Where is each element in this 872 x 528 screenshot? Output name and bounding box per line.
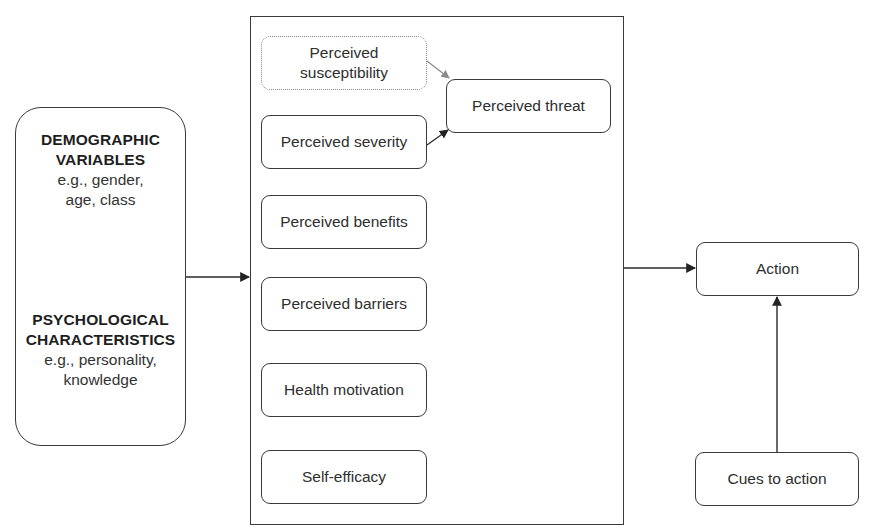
psychological-heading-line1: PSYCHOLOGICAL — [16, 310, 185, 330]
perceived-benefits-box: Perceived benefits — [261, 195, 427, 249]
cues-to-action-box: Cues to action — [695, 452, 859, 506]
perceived-threat-box: Perceived threat — [446, 79, 611, 133]
barriers-label: Perceived barriers — [281, 294, 407, 314]
cues-label: Cues to action — [727, 469, 826, 489]
psychological-example-line2: knowledge — [16, 370, 185, 390]
psychological-heading-line2: CHARACTERISTICS — [16, 330, 185, 350]
perceived-severity-box: Perceived severity — [261, 115, 427, 169]
self-efficacy-label: Self-efficacy — [302, 467, 386, 487]
benefits-label: Perceived benefits — [280, 212, 408, 232]
self-efficacy-box: Self-efficacy — [261, 450, 427, 504]
susceptibility-label-line1: Perceived — [310, 43, 379, 63]
demographic-example-line1: e.g., gender, — [16, 170, 185, 190]
threat-label: Perceived threat — [472, 96, 585, 116]
demographic-heading-line2: VARIABLES — [16, 150, 185, 170]
psychological-example-line1: e.g., personality, — [16, 350, 185, 370]
susceptibility-label-line2: susceptibility — [300, 63, 388, 83]
demographic-variables-group: DEMOGRAPHIC VARIABLES e.g., gender, age,… — [16, 130, 185, 210]
demographic-heading-line1: DEMOGRAPHIC — [16, 130, 185, 150]
psychological-characteristics-group: PSYCHOLOGICAL CHARACTERISTICS e.g., pers… — [16, 310, 185, 390]
modifying-factors-box: DEMOGRAPHIC VARIABLES e.g., gender, age,… — [15, 107, 186, 446]
perceived-susceptibility-box: Perceived susceptibility — [261, 36, 427, 90]
action-label: Action — [756, 259, 799, 279]
action-box: Action — [696, 242, 859, 296]
motivation-label: Health motivation — [284, 380, 404, 400]
severity-label: Perceived severity — [281, 132, 408, 152]
perceived-barriers-box: Perceived barriers — [261, 277, 427, 331]
health-motivation-box: Health motivation — [261, 363, 427, 417]
demographic-example-line2: age, class — [16, 190, 185, 210]
